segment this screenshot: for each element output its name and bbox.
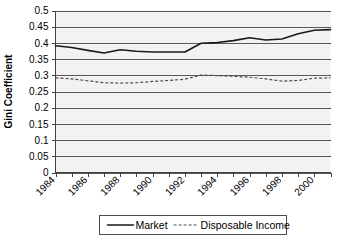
legend-label-disposable-income: Disposable Income — [201, 219, 290, 231]
y-tick-label: 0.05 — [29, 151, 49, 162]
y-tick-label: 0.35 — [29, 54, 49, 65]
y-axis-title: Gini Coefficient — [3, 54, 14, 129]
x-tick-label: 2000 — [292, 174, 316, 198]
y-tick-label: 0.25 — [29, 86, 49, 97]
x-tick-label: 1996 — [228, 174, 252, 198]
y-tick-label: 0.1 — [35, 135, 49, 146]
y-tick-label: 0.5 — [35, 5, 49, 16]
y-tick-label: 0.4 — [35, 38, 49, 49]
x-tick-label: 1988 — [98, 174, 122, 198]
x-tick-label: 1984 — [33, 174, 57, 198]
x-tick-label: 1992 — [163, 174, 187, 198]
y-tick-label: 0.3 — [35, 70, 49, 81]
y-axis — [52, 11, 56, 174]
x-tick-label: 1998 — [260, 174, 284, 198]
y-tick-labels: 00.050.10.150.20.250.30.350.40.450.5 — [29, 5, 49, 178]
gini-coefficient-line-chart: 00.050.10.150.20.250.30.350.40.450.5 198… — [0, 0, 346, 244]
y-axis-title-text: Gini Coefficient — [3, 54, 14, 129]
x-tick-label: 1994 — [195, 174, 219, 198]
y-tick-label: 0.45 — [29, 21, 49, 32]
y-tick-label: 0.15 — [29, 119, 49, 130]
x-tick-labels: 198419861988199019921994199619982000 — [33, 174, 316, 198]
x-tick-label: 1990 — [130, 174, 154, 198]
plot-area-background — [56, 11, 331, 173]
chart-legend: MarketDisposable Income — [100, 216, 291, 235]
plot-background — [56, 11, 331, 173]
x-tick-label: 1986 — [66, 174, 90, 198]
y-tick-label: 0.2 — [35, 102, 49, 113]
chart-figure: 00.050.10.150.20.250.30.350.40.450.5 198… — [0, 0, 346, 244]
legend-label-market: Market — [136, 219, 168, 231]
